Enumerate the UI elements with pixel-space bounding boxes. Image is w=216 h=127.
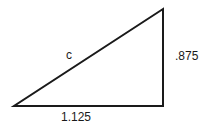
- hypotenuse-label: c: [66, 49, 72, 61]
- right-triangle: [14, 9, 163, 106]
- horizontal-side-label: 1.125: [61, 111, 91, 123]
- vertical-side-label: .875: [175, 50, 198, 62]
- triangle-figure: [0, 0, 216, 127]
